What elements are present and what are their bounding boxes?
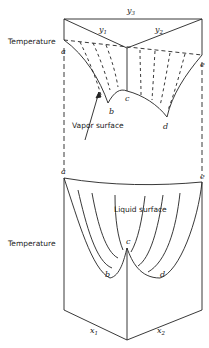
label-y2: y2 (154, 25, 164, 35)
phase-diagram: y3 y1 y2 Temperature a e b c d Vapor sur… (0, 0, 209, 348)
label-y1: y1 (98, 25, 107, 35)
liquid-point-e: e (200, 172, 205, 181)
label-x2: x2 (157, 326, 166, 336)
label-y3: y3 (126, 6, 136, 16)
vapor-point-a: a (61, 47, 66, 56)
liquid-point-b: b (105, 270, 110, 279)
liquid-surface-label: Liquid surface (114, 205, 167, 214)
liquid-prism (64, 178, 202, 340)
vapor-point-b: b (109, 107, 114, 116)
vapor-point-c: c (125, 94, 130, 103)
vapor-temperature-label: Temperature (7, 37, 56, 46)
vapor-surface-label: Vapor surface (72, 121, 124, 130)
liquid-point-a: a (61, 167, 66, 176)
vapor-point-e: e (200, 60, 205, 69)
label-x1: x1 (90, 326, 98, 336)
vapor-point-d: d (163, 122, 168, 131)
liquid-point-d: d (160, 270, 165, 279)
liquid-temperature-label: Temperature (7, 239, 56, 248)
liquid-point-c: c (126, 237, 131, 246)
